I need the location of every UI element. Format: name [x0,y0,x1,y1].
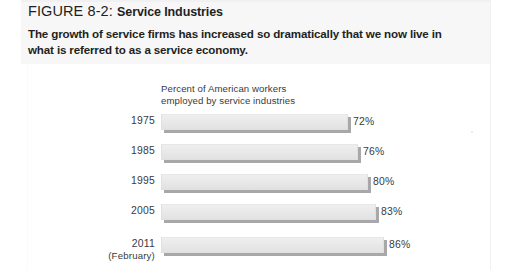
bar-category-label: 1985 [40,144,155,157]
bar-wrapper [161,114,348,134]
bar-shadow-bottom [164,220,379,223]
figure-name-label: Service Industries [117,5,223,19]
bar-shadow-bottom [164,253,387,256]
bar-category-sublabel: (February) [40,250,155,262]
bar-shadow-bottom [164,190,371,193]
bar-value-label: 80% [373,175,394,188]
bar-wrapper [161,237,384,257]
chart-title-line-2: employed by service industries [161,95,295,106]
bar-wrapper [161,174,368,194]
header-band-top-edge [21,0,490,2]
bar-wrapper [161,204,376,224]
bar-chart: Percent of American workers employed by … [0,64,513,270]
bar-category-label: 1975 [40,114,155,127]
bar-shadow-right [368,177,371,193]
bar-value-label: 76% [363,145,384,158]
bar-category-year: 1975 [131,115,155,126]
bar-category-label: 2011 (February) [40,237,155,262]
figure-description: The growth of service firms has increase… [28,26,468,57]
bar-shape [161,204,376,220]
bar-shape [161,237,384,253]
bar-category-year: 1985 [131,145,155,156]
chart-title: Percent of American workers employed by … [161,83,381,107]
bar-shadow-right [376,207,379,223]
bar-category-year: 2011 [132,238,155,249]
bar-value-label: 83% [381,205,402,218]
chart-title-line-1: Percent of American workers [161,83,286,94]
figure-container: FIGURE 8-2: Service Industries The growt… [0,0,513,270]
bar-shadow-bottom [164,160,361,163]
bar-shadow-bottom [164,130,351,133]
bar-value-label: 72% [353,115,374,128]
bar-shape [161,174,368,190]
bar-shadow-right [348,117,351,133]
bar-category-label: 2005 [40,204,155,217]
bar-shape [161,144,358,160]
bar-category-year: 1995 [131,175,155,186]
bar-shadow-right [384,240,387,256]
figure-title: FIGURE 8-2: Service Industries [28,3,223,19]
figure-number-label: FIGURE 8-2: [28,3,113,19]
bar-category-label: 1995 [40,174,155,187]
bar-category-year: 2005 [131,205,155,216]
bar-shape [161,114,348,130]
bar-shadow-right [358,147,361,163]
bar-wrapper [161,144,358,164]
bar-value-label: 86% [389,238,410,251]
